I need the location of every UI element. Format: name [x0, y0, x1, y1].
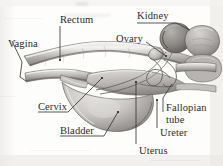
label-ureter: Ureter — [160, 127, 187, 138]
anatomy-illustration — [0, 0, 223, 166]
label-kidney: Kidney — [137, 10, 169, 21]
label-ovary: Ovary — [116, 33, 143, 44]
label-bladder: Bladder — [60, 125, 94, 136]
label-cervix: Cervix — [38, 101, 67, 112]
scan-edge-left — [0, 0, 14, 166]
label-vagina: Vagina — [8, 38, 38, 49]
anatomical-figure: Vagina Rectum Kidney Ovary Cervix Bladde… — [0, 0, 223, 166]
scan-edge-bottom — [0, 155, 223, 166]
scan-edge-right — [210, 0, 223, 166]
organ-kidney-secondary — [185, 26, 220, 57]
scan-edge-top — [0, 0, 223, 6]
label-fallopian-tube: Fallopian tube — [166, 102, 212, 125]
label-uterus: Uterus — [139, 145, 168, 156]
label-rectum: Rectum — [60, 14, 93, 25]
